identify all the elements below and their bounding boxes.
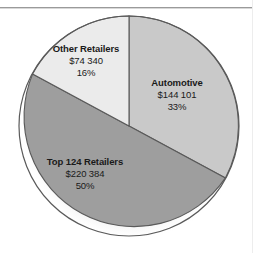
slice-label-top-124-retailers-percent: 50% — [25, 180, 145, 192]
slice-label-other-retailers-name: Other Retailers — [37, 43, 135, 55]
chart-plot-area: Automotive $144 101 33% Other Retailers … — [0, 0, 253, 253]
slice-label-automotive-percent: 33% — [133, 101, 221, 113]
slice-label-top-124-retailers-value: $220 384 — [25, 168, 145, 180]
pie-svg — [0, 0, 253, 253]
slice-label-top-124-retailers-name: Top 124 Retailers — [25, 156, 145, 168]
slice-label-automotive-value: $144 101 — [133, 89, 221, 101]
slice-label-automotive-name: Automotive — [133, 77, 221, 89]
slice-label-other-retailers: Other Retailers $74 340 16% — [37, 43, 135, 79]
slice-label-top-124-retailers: Top 124 Retailers $220 384 50% — [25, 156, 145, 192]
slice-label-other-retailers-value: $74 340 — [37, 55, 135, 67]
pie-chart-figure: Automotive $144 101 33% Other Retailers … — [0, 0, 253, 253]
slice-label-automotive: Automotive $144 101 33% — [133, 77, 221, 113]
slice-label-other-retailers-percent: 16% — [37, 67, 135, 79]
